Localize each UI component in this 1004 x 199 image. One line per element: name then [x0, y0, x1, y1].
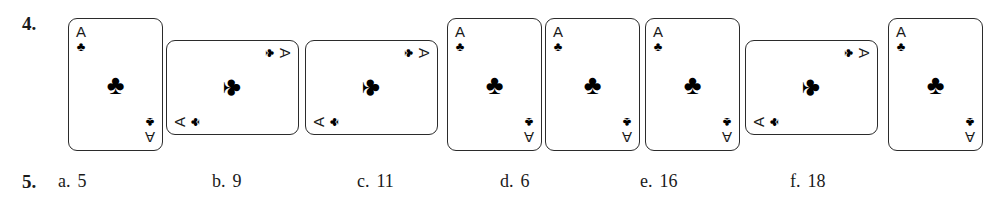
card-corner-index-tl: A♣ [76, 24, 86, 53]
card-corner-index-br: A♣ [172, 117, 201, 127]
club-icon: ♣ [767, 118, 780, 127]
playing-card-7: A♣♣A♣ [745, 40, 878, 135]
club-icon: ♣ [897, 40, 906, 53]
option-letter: a. [58, 171, 71, 191]
question-5-number: 5. [22, 172, 36, 191]
card-rank: A [455, 24, 465, 39]
card-rank: A [965, 130, 975, 145]
card-rank: A [553, 24, 563, 39]
playing-card-8: A♣♣A♣ [888, 18, 983, 151]
club-icon: ♣ [927, 71, 945, 98]
club-icon: ♣ [554, 40, 563, 53]
option-letter: b. [212, 171, 226, 191]
card-corner-index-tl: A♣ [455, 24, 465, 53]
club-icon: ♣ [798, 79, 825, 97]
answer-option-c[interactable]: c.11 [357, 172, 394, 190]
option-letter: c. [357, 171, 370, 191]
club-icon: ♣ [77, 40, 86, 53]
card-corner-index-tl: A♣ [553, 24, 563, 53]
question-4-number: 4. [22, 14, 36, 33]
option-letter: f. [790, 171, 801, 191]
card-corner-index-br: A♣ [751, 117, 780, 127]
option-letter: e. [640, 171, 653, 191]
playing-card-2: A♣♣A♣ [166, 40, 299, 135]
club-icon: ♣ [966, 116, 975, 129]
club-icon: ♣ [654, 40, 663, 53]
card-corner-index-br: A♣ [145, 116, 155, 145]
card-rank: A [145, 130, 155, 145]
answer-option-a[interactable]: a.5 [58, 172, 87, 190]
club-icon: ♣ [723, 116, 732, 129]
card-rank: A [896, 24, 906, 39]
playing-card-3: A♣♣A♣ [305, 40, 438, 135]
playing-card-6: A♣♣A♣ [645, 18, 740, 151]
answer-option-e[interactable]: e.16 [640, 172, 678, 190]
club-icon: ♣ [188, 118, 201, 127]
card-corner-index-tl: A♣ [896, 24, 906, 53]
card-rank: A [653, 24, 663, 39]
card-rank: A [417, 48, 432, 58]
card-corner-index-br: A♣ [311, 117, 340, 127]
option-value: 16 [660, 171, 678, 191]
club-icon: ♣ [584, 71, 602, 98]
card-corner-index-tl: A♣ [264, 48, 293, 58]
card-corner-index-tl: A♣ [403, 48, 432, 58]
club-icon: ♣ [623, 116, 632, 129]
club-icon: ♣ [327, 118, 340, 127]
club-icon: ♣ [107, 71, 125, 98]
card-rank: A [622, 130, 632, 145]
option-value: 5 [78, 171, 87, 191]
option-letter: d. [500, 171, 514, 191]
club-icon: ♣ [525, 116, 534, 129]
card-corner-index-tl: A♣ [843, 48, 872, 58]
club-icon: ♣ [486, 71, 504, 98]
club-icon: ♣ [843, 49, 856, 58]
playing-card-1: A♣♣A♣ [68, 18, 163, 151]
card-corner-index-br: A♣ [622, 116, 632, 145]
question-5-options-row: 5. a.5b.9c.11d.6e.16f.18 [0, 155, 1004, 199]
question-4-card-row: 4. A♣♣A♣A♣♣A♣A♣♣A♣A♣♣A♣A♣♣A♣A♣♣A♣A♣♣A♣A♣… [0, 0, 1004, 155]
option-value: 11 [377, 171, 394, 191]
card-rank: A [278, 48, 293, 58]
club-icon: ♣ [264, 49, 277, 58]
answer-option-f[interactable]: f.18 [790, 172, 826, 190]
card-corner-index-br: A♣ [722, 116, 732, 145]
answer-option-d[interactable]: d.6 [500, 172, 530, 190]
card-rank: A [76, 24, 86, 39]
card-rank: A [311, 117, 326, 127]
card-rank: A [524, 130, 534, 145]
card-rank: A [751, 117, 766, 127]
club-icon: ♣ [219, 79, 246, 97]
club-icon: ♣ [403, 49, 416, 58]
club-icon: ♣ [456, 40, 465, 53]
option-value: 18 [808, 171, 826, 191]
club-icon: ♣ [684, 71, 702, 98]
card-corner-index-tl: A♣ [653, 24, 663, 53]
card-rank: A [172, 117, 187, 127]
option-value: 9 [233, 171, 242, 191]
club-icon: ♣ [358, 79, 385, 97]
card-corner-index-br: A♣ [524, 116, 534, 145]
card-rank: A [857, 48, 872, 58]
card-corner-index-br: A♣ [965, 116, 975, 145]
option-value: 6 [521, 171, 530, 191]
playing-card-5: A♣♣A♣ [545, 18, 640, 151]
playing-card-4: A♣♣A♣ [447, 18, 542, 151]
answer-option-b[interactable]: b.9 [212, 172, 242, 190]
card-rank: A [722, 130, 732, 145]
club-icon: ♣ [146, 116, 155, 129]
